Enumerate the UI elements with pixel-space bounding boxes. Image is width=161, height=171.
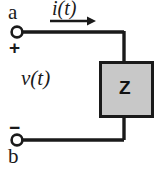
terminal-a-node-icon [12,27,23,38]
impedance-label: Z [119,78,131,97]
polarity-negative-label: − [9,118,20,137]
one-port-impedance-figure: a + i(t) v(t) Z − b [0,0,161,171]
voltage-label: v(t) [21,68,50,89]
polarity-positive-label: + [9,38,20,57]
terminal-a-label: a [8,2,17,23]
terminal-b-label: b [8,146,19,167]
current-label: i(t) [52,0,76,18]
